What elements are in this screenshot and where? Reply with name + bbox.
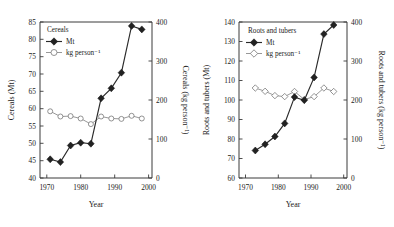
data-point <box>67 142 74 149</box>
cereals-chart-svg: 40 45 50 55 60 65 70 75 80 85 0 <box>0 0 197 227</box>
y2tick-label: 100 <box>351 135 362 144</box>
ytick-label: 80 <box>29 35 37 44</box>
roots-left-axis-ticks <box>239 22 243 178</box>
ytick-label: 40 <box>29 174 37 183</box>
data-point <box>272 92 278 98</box>
ytick-label: 45 <box>29 156 37 165</box>
xtick-label: 1970 <box>238 183 253 192</box>
data-point <box>139 116 144 121</box>
filled-diamond-icon <box>50 38 57 45</box>
data-point <box>57 159 64 166</box>
roots-left-axis-ticklabels: 60 70 80 90 100 110 120 130 140 <box>224 18 235 183</box>
data-point <box>311 74 318 81</box>
data-point <box>109 116 114 121</box>
y2tick-label: 0 <box>351 174 355 183</box>
y2tick-label: 100 <box>156 135 167 144</box>
cereals-right-axis-ticks <box>149 22 153 178</box>
ytick-label: 85 <box>29 18 37 27</box>
ytick-label: 140 <box>224 18 235 27</box>
legend-label: kg person⁻¹ <box>266 50 300 58</box>
roots-x-axis-title: Year <box>286 200 301 209</box>
data-point <box>88 140 95 147</box>
panel-cereals: 40 45 50 55 60 65 70 75 80 85 0 <box>0 0 197 227</box>
legend-entry-mt: Mt <box>246 39 274 47</box>
xtick-label: 1970 <box>39 183 54 192</box>
data-point <box>78 116 83 121</box>
legend-title: Roots and tubers <box>248 27 297 35</box>
y2tick-label: 0 <box>156 174 160 183</box>
ytick-label: 70 <box>228 154 236 163</box>
ytick-label: 50 <box>29 139 37 148</box>
roots-right-axis-ticks <box>344 22 348 178</box>
filled-diamond-icon <box>250 39 257 46</box>
xtick-label: 2000 <box>141 183 156 192</box>
cereals-left-axis-ticks <box>40 22 44 178</box>
data-point <box>129 113 134 118</box>
xtick-label: 1990 <box>304 183 319 192</box>
figure-two-panel-line-charts: 40 45 50 55 60 65 70 75 80 85 0 <box>0 0 394 227</box>
y2tick-label: 200 <box>351 96 362 105</box>
open-circle-icon <box>51 50 57 56</box>
data-point <box>47 156 54 163</box>
roots-y2-axis-title: Roots and tubers (kg person⁻¹) <box>377 51 386 150</box>
y2tick-label: 200 <box>156 96 167 105</box>
data-point <box>119 116 124 121</box>
legend-entry-mt: Mt <box>46 38 74 46</box>
y2tick-label: 300 <box>156 57 167 66</box>
ytick-label: 80 <box>228 135 236 144</box>
data-point <box>77 139 84 146</box>
ytick-label: 60 <box>29 104 37 113</box>
roots-tubers-chart-svg: 60 70 80 90 100 110 120 130 140 0 100 <box>197 0 394 227</box>
cereals-series-kg-person <box>48 109 145 127</box>
ytick-label: 65 <box>29 87 37 96</box>
legend-entry-kg-person: kg person⁻¹ <box>246 50 300 58</box>
ytick-label: 100 <box>224 96 235 105</box>
roots-x-axis-ticks <box>246 175 344 179</box>
y2tick-label: 300 <box>351 57 362 66</box>
cereals-y2-axis-title: Cereals (kg person⁻¹) <box>181 65 190 134</box>
data-point <box>58 114 63 119</box>
data-point <box>139 26 146 33</box>
open-diamond-icon <box>250 50 257 57</box>
panel-roots-and-tubers: 60 70 80 90 100 110 120 130 140 0 100 <box>197 0 394 227</box>
data-point <box>88 122 93 127</box>
legend-label: Mt <box>66 38 74 46</box>
cereals-legend: Cereals Mt kg person⁻¹ <box>46 26 100 57</box>
data-point <box>331 88 337 94</box>
legend-entry-kg-person: kg person⁻¹ <box>46 49 100 57</box>
ytick-label: 60 <box>228 174 236 183</box>
xtick-label: 1980 <box>73 183 88 192</box>
ytick-label: 90 <box>228 115 236 124</box>
y2tick-label: 400 <box>156 18 167 27</box>
cereals-left-axis-ticklabels: 40 45 50 55 60 65 70 75 80 85 <box>29 18 37 183</box>
data-point <box>99 114 104 119</box>
cereals-x-axis-ticklabels: 1970 1980 1990 2000 <box>39 183 156 192</box>
roots-legend: Roots and tubers Mt kg person⁻¹ <box>246 27 300 58</box>
data-point <box>68 114 73 119</box>
data-point <box>282 93 288 99</box>
ytick-label: 130 <box>224 37 235 46</box>
legend-label: kg person⁻¹ <box>66 49 100 57</box>
data-point <box>252 85 258 91</box>
xtick-label: 1980 <box>271 183 286 192</box>
roots-x-axis-ticklabels: 1970 1980 1990 2000 <box>238 183 351 192</box>
data-point <box>291 94 298 101</box>
ytick-label: 110 <box>224 76 235 85</box>
legend-label: Mt <box>266 39 274 47</box>
ytick-label: 120 <box>224 57 235 66</box>
data-point <box>128 22 135 29</box>
cereals-axes <box>40 22 152 178</box>
data-point <box>118 69 125 76</box>
ytick-label: 55 <box>29 122 37 131</box>
cereals-x-axis-ticks <box>47 175 149 179</box>
ytick-label: 70 <box>29 70 37 79</box>
y2tick-label: 400 <box>351 18 362 27</box>
xtick-label: 2000 <box>336 183 351 192</box>
cereals-series-mt <box>47 22 145 165</box>
legend-title: Cereals <box>47 26 69 34</box>
data-point <box>252 147 259 154</box>
cereals-y-axis-title: Cereals (Mt) <box>7 79 16 120</box>
xtick-label: 1990 <box>107 183 122 192</box>
cereals-x-axis-title: Year <box>89 200 104 209</box>
data-point <box>48 109 53 114</box>
